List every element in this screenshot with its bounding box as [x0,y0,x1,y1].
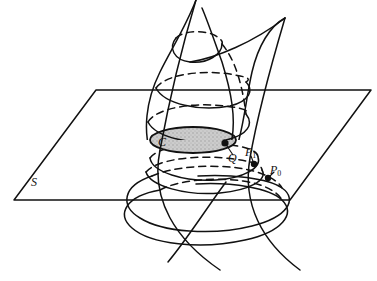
label-point-P0-subscript: 0 [277,169,281,178]
label-point-P1: P1 [245,146,256,160]
label-cross-section-C: C [158,136,166,148]
label-point-Q: Q [228,152,237,164]
figure-container: S C Q P1 P0 [0,0,377,281]
label-point-P1-subscript: 1 [252,151,256,160]
label-plane-S: S [31,176,37,188]
label-point-P0: P0 [270,164,281,178]
diagram-canvas [0,0,377,281]
